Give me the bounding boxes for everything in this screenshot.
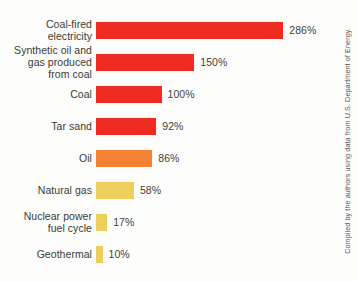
bar-value-label: 92%	[156, 120, 183, 132]
bar-oil	[96, 150, 152, 167]
bar-track: 286%	[96, 14, 320, 46]
bar-value-label: 86%	[152, 152, 179, 164]
bar-synthetic-oil-gas-from-coal	[96, 54, 194, 71]
bar-category-label: Nuclear power fuel cycle	[0, 210, 96, 234]
bar-value-label: 150%	[194, 56, 227, 68]
bar-natural-gas	[96, 182, 134, 199]
bar-track: 150%	[96, 46, 320, 78]
bar-tar-sand	[96, 118, 156, 135]
source-credit-text: Compiled by the authors using data from …	[343, 28, 352, 254]
table-row: Tar sand 92%	[0, 110, 320, 142]
table-row: Oil 86%	[0, 142, 320, 174]
bar-category-label: Geothermal	[0, 248, 96, 260]
table-row: Natural gas 58%	[0, 174, 320, 206]
bar-category-label: Oil	[0, 152, 96, 164]
bar-category-label: Coal	[0, 88, 96, 100]
bar-track: 86%	[96, 142, 320, 174]
bar-value-label: 286%	[283, 24, 316, 36]
table-row: Coal-fired electricity 286%	[0, 14, 320, 46]
bar-value-label: 58%	[134, 184, 161, 196]
bar-nuclear-power-fuel-cycle	[96, 214, 107, 231]
chart-plot-area: Coal-fired electricity 286% Synthetic oi…	[0, 14, 320, 272]
source-credit: Compiled by the authors using data from …	[339, 0, 355, 281]
bar-track: 17%	[96, 206, 320, 238]
table-row: Coal 100%	[0, 78, 320, 110]
bar-track: 92%	[96, 110, 320, 142]
bar-track: 58%	[96, 174, 320, 206]
bar-value-label: 100%	[162, 88, 195, 100]
bar-category-label: Synthetic oil and gas produced from coal	[0, 44, 96, 81]
bar-category-label: Tar sand	[0, 120, 96, 132]
bar-coal	[96, 86, 162, 103]
bar-track: 100%	[96, 78, 320, 110]
table-row: Geothermal 10%	[0, 238, 320, 270]
table-row: Nuclear power fuel cycle 17%	[0, 206, 320, 238]
bar-value-label: 10%	[103, 248, 130, 260]
table-row: Synthetic oil and gas produced from coal…	[0, 46, 320, 78]
bar-coal-fired-electricity	[96, 22, 283, 39]
bar-category-label: Natural gas	[0, 184, 96, 196]
energy-return-bar-chart: Coal-fired electricity 286% Synthetic oi…	[0, 0, 357, 281]
bar-value-label: 17%	[107, 216, 134, 228]
bar-track: 10%	[96, 238, 320, 270]
bar-category-label: Coal-fired electricity	[0, 18, 96, 42]
